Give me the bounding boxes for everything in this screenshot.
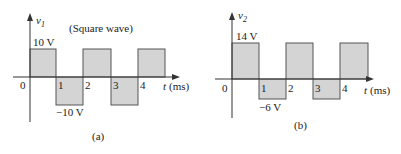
figure-b: v2 14 V −6 V 0 1 2 3 4 t(ms) (b) [215, 9, 391, 132]
origin-label-b: 0 [222, 82, 228, 94]
y-axis-arrow-b [229, 12, 235, 20]
low-level-label-b: −6 V [259, 101, 281, 113]
high-level-label-b: 14 V [236, 30, 258, 42]
square-wave-figures: v1 (Square wave) 10 V −10 V 0 1 2 3 4 t(… [0, 0, 401, 154]
y-axis-label-b: v2 [238, 9, 247, 24]
tick-label-b-2: 2 [288, 82, 294, 94]
waveform-title: (Square wave) [69, 22, 133, 35]
y-axis-arrow-a [27, 13, 33, 21]
waveform-b [232, 43, 368, 99]
low-level-label-a: −10 V [56, 106, 84, 118]
tick-label-a-3: 3 [113, 79, 119, 91]
caption-a: (a) [92, 130, 105, 143]
tick-label-b-3: 3 [315, 82, 321, 94]
figure-a: v1 (Square wave) 10 V −10 V 0 1 2 3 4 t(… [13, 13, 190, 143]
tick-label-a-1: 1 [58, 79, 64, 91]
x-axis-label-a: t(ms) [163, 80, 190, 93]
high-level-label-a: 10 V [33, 36, 55, 48]
tick-label-a-2: 2 [85, 79, 91, 91]
tick-label-b-4: 4 [342, 82, 348, 94]
tick-label-a-4: 4 [140, 79, 146, 91]
origin-label-a: 0 [20, 79, 26, 91]
x-axis-label-b: t(ms) [364, 84, 391, 97]
x-axis-arrow-b [366, 76, 374, 82]
caption-b: (b) [294, 119, 307, 132]
y-axis-label-a: v1 [36, 14, 45, 29]
tick-label-b-1: 1 [261, 82, 267, 94]
